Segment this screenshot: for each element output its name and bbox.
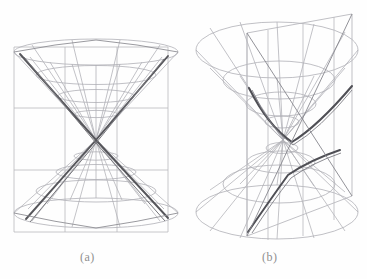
panel-b-hyperbola-shadow <box>252 90 352 233</box>
panel-a-lower-cone-meridians <box>14 140 178 227</box>
panel-a-wireframe <box>14 39 178 232</box>
panel-b-caption: (b) <box>262 250 278 265</box>
panel-a-graphic <box>0 0 367 279</box>
panel-b-plane-generators <box>247 14 352 236</box>
panel-b-vertical-plane <box>247 17 334 240</box>
panel-a-caption: (a) <box>80 250 95 265</box>
panel-b-wireframe <box>196 14 358 240</box>
panel-b-hyperbola-lower-branch <box>248 150 340 232</box>
conic-sections-figure: (a) (b) <box>0 0 367 279</box>
panel-a-upper-cone-meridians <box>14 40 178 140</box>
